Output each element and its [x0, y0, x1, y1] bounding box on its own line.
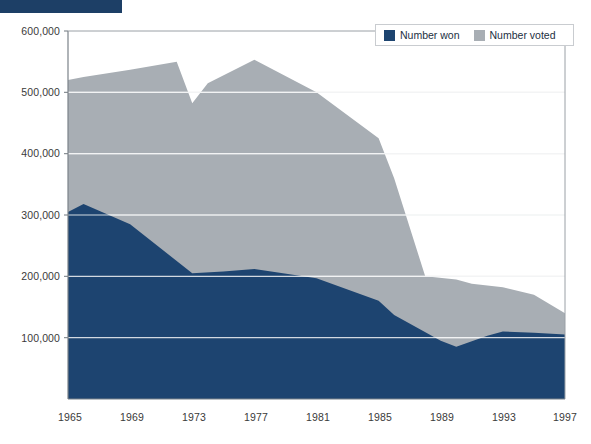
- title-banner-label: [0, 0, 122, 13]
- y-tick-label-300000: 300,000: [2, 209, 60, 221]
- x-tick-label-1993: 1993: [482, 411, 526, 423]
- x-tick-label-1981: 1981: [296, 411, 340, 423]
- legend-item-number-won: Number won: [384, 29, 460, 41]
- x-tick-label-1989: 1989: [420, 411, 464, 423]
- y-tick-label-400000: 400,000: [2, 147, 60, 159]
- x-tick-label-1997: 1997: [543, 411, 587, 423]
- y-tick-label-600000: 600,000: [2, 25, 60, 37]
- y-tick-label-100000: 100,000: [2, 332, 60, 344]
- title-banner: [0, 0, 122, 13]
- chart-legend: Number won Number voted: [375, 24, 574, 46]
- x-tick-label-1985: 1985: [358, 411, 402, 423]
- square-swatch-icon: [474, 30, 485, 41]
- x-tick-label-1977: 1977: [234, 411, 278, 423]
- legend-label-number-won: Number won: [400, 29, 460, 41]
- legend-label-number-voted: Number voted: [490, 29, 556, 41]
- x-tick-label-1969: 1969: [110, 411, 154, 423]
- chart-figure: [0, 0, 591, 444]
- legend-item-number-voted: Number voted: [474, 29, 556, 41]
- y-tick-label-200000: 200,000: [2, 270, 60, 282]
- square-swatch-icon: [384, 30, 395, 41]
- x-tick-label-1973: 1973: [172, 411, 216, 423]
- x-tick-label-1965: 1965: [48, 411, 92, 423]
- y-tick-label-500000: 500,000: [2, 86, 60, 98]
